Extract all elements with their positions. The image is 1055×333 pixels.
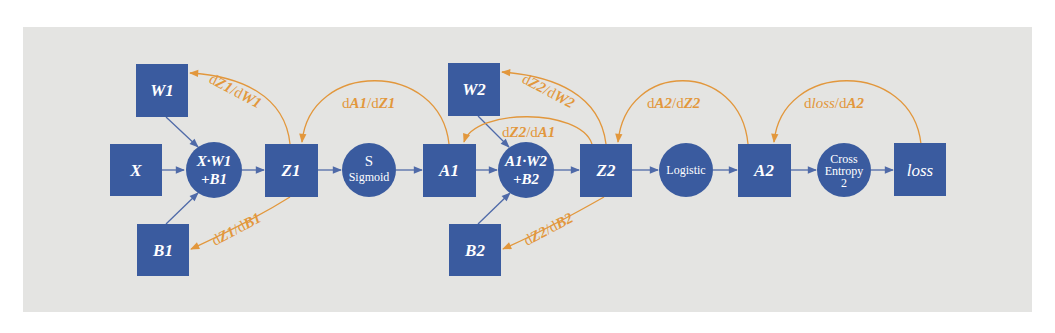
grad-label-da1-dz1: dA1/dZ1 — [342, 95, 395, 111]
node-label: Z1 — [281, 161, 301, 180]
grad-label-dz1-db1: dZ1/dB1 — [209, 209, 264, 248]
node-label: A1·W2 — [504, 153, 548, 169]
computation-graph: X W1 B1 X·W1 +B1 Z1 S Sigmoid A1 W2 B2 A… — [0, 0, 1055, 333]
node-label: +B1 — [201, 171, 227, 187]
node-sigmoid: S Sigmoid — [342, 143, 396, 197]
node-label: +B2 — [513, 171, 540, 187]
node-z1: Z1 — [265, 144, 318, 197]
grad-label-dz2-dw2: dZ2/dW2 — [520, 71, 578, 112]
node-label: A2 — [753, 161, 774, 180]
node-label: A1 — [438, 161, 459, 180]
node-label: X·W1 — [196, 153, 232, 169]
node-a1: A1 — [423, 144, 476, 197]
node-label: S — [365, 153, 373, 169]
node-label: B1 — [152, 241, 173, 260]
grad-label-dloss-da2: dloss/dA2 — [804, 95, 865, 111]
node-label: W1 — [150, 81, 174, 100]
node-z2: Z2 — [580, 144, 632, 197]
node-b1: B1 — [137, 224, 189, 276]
edge-b1-to-op1 — [166, 193, 198, 224]
grad-label-dz2-db2: dZ2/dB2 — [521, 209, 576, 248]
edge-grad-a2-to-z2 — [618, 81, 748, 144]
node-label: 2 — [841, 176, 847, 190]
node-w1: W1 — [136, 64, 188, 117]
node-label: X — [129, 161, 142, 180]
edge-b2-to-op2 — [478, 193, 510, 224]
grad-label-da2-dz2: dA2/dZ2 — [647, 95, 701, 111]
node-a2: A2 — [738, 144, 791, 197]
node-label: loss — [907, 161, 934, 180]
edge-w1-to-op1 — [166, 117, 198, 147]
node-label: B2 — [464, 241, 485, 260]
node-linear-op-2: A1·W2 +B2 — [498, 142, 554, 198]
node-x: X — [110, 144, 162, 196]
node-linear-op-1: X·W1 +B1 — [186, 142, 242, 198]
node-loss: loss — [894, 143, 946, 196]
node-label: Sigmoid — [349, 170, 390, 184]
grad-label-dz2-da1: dZ2/dA1 — [502, 124, 555, 140]
edge-grad-loss-to-a2 — [774, 81, 921, 144]
node-cross-entropy: Cross Entropy 2 — [817, 143, 871, 197]
node-label: W2 — [462, 80, 486, 99]
node-b2: B2 — [449, 224, 501, 276]
node-label: Logistic — [666, 163, 705, 177]
node-logistic: Logistic — [659, 143, 713, 197]
node-w2: W2 — [448, 63, 500, 116]
edge-grad-a1-to-z1 — [302, 81, 449, 144]
node-label: Z2 — [596, 161, 616, 180]
